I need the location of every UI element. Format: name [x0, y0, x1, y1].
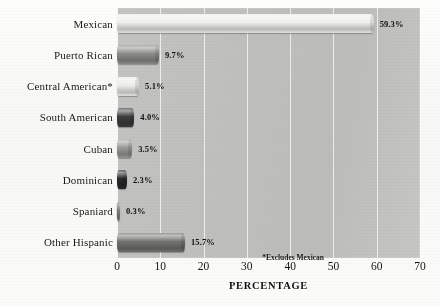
bar-value-label: 2.3% [133, 175, 153, 185]
bar-row: 5.1% [117, 74, 420, 98]
bar-mexican[interactable] [117, 14, 374, 33]
bar-value-label: 15.7% [191, 237, 215, 247]
bar-row: 4.0% [117, 105, 420, 129]
bar-spaniard[interactable] [117, 202, 120, 221]
category-label-mexican: Mexican [73, 18, 113, 30]
bar-row: 59.3% [117, 12, 420, 36]
bar-central-american[interactable] [117, 77, 139, 96]
bar-row: 15.7% [117, 230, 420, 254]
category-label-other-hispanic: Other Hispanic [44, 236, 113, 248]
bar-row: 0.3% [117, 199, 420, 223]
category-label-central-american: Central American* [27, 80, 113, 92]
bar-value-label: 5.1% [145, 81, 165, 91]
category-label-dominican: Dominican [63, 174, 113, 186]
bar-row: 2.3% [117, 168, 420, 192]
x-tick-60: 60 [371, 260, 383, 272]
category-label-south-american: South American [40, 111, 113, 123]
bar-south-american[interactable] [117, 108, 134, 127]
x-axis-title: PERCENTAGE [117, 280, 420, 291]
category-label-spaniard: Spaniard [73, 205, 113, 217]
hispanic-origin-bar-chart: 59.3%9.7%5.1%4.0%3.5%2.3%0.3%15.7% Mexic… [0, 0, 440, 306]
x-tick-70: 70 [414, 260, 426, 272]
bar-row: 9.7% [117, 43, 420, 67]
plot-area: 59.3%9.7%5.1%4.0%3.5%2.3%0.3%15.7% [117, 8, 420, 258]
bar-other-hispanic[interactable] [117, 233, 185, 252]
x-axis-ticks: 010203040506070 [117, 258, 420, 278]
x-tick-10: 10 [155, 260, 167, 272]
bar-value-label: 59.3% [380, 19, 404, 29]
x-tick-30: 30 [241, 260, 253, 272]
bar-value-label: 4.0% [140, 112, 160, 122]
x-tick-0: 0 [114, 260, 120, 272]
x-tick-50: 50 [328, 260, 340, 272]
bar-cuban[interactable] [117, 139, 132, 158]
category-label-cuban: Cuban [84, 143, 113, 155]
bar-puerto-rican[interactable] [117, 45, 159, 64]
bar-rows: 59.3%9.7%5.1%4.0%3.5%2.3%0.3%15.7% [117, 8, 420, 258]
bar-value-label: 3.5% [138, 144, 158, 154]
bar-dominican[interactable] [117, 170, 127, 189]
bar-row: 3.5% [117, 137, 420, 161]
x-tick-20: 20 [198, 260, 210, 272]
gridline-70 [420, 8, 421, 258]
category-label-puerto-rican: Puerto Rican [54, 49, 113, 61]
category-axis-labels: MexicanPuerto RicanCentral American*Sout… [0, 8, 113, 258]
bar-value-label: 0.3% [126, 206, 146, 216]
bar-value-label: 9.7% [165, 50, 185, 60]
x-tick-40: 40 [284, 260, 296, 272]
